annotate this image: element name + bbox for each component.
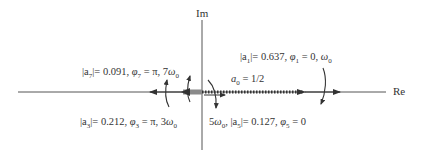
a0-value: = 1/2 xyxy=(240,73,265,84)
a7-mag-left: |a xyxy=(82,66,89,77)
real-axis-label: Re xyxy=(393,86,405,97)
a3-label: |a3|= 0.212, φ3 = π, 3ω0 xyxy=(80,117,177,130)
a5-freq: ω xyxy=(214,116,221,127)
a3-mag-left: |a xyxy=(80,116,87,127)
a3-mag-right: |= 0.212, xyxy=(90,116,130,127)
a1-rotation-arrow xyxy=(321,68,325,104)
a5-label: 5ω0, |a5|= 0.127, φ5 = 0 xyxy=(209,117,306,130)
a5-mag-right: |= 0.127, xyxy=(241,116,281,127)
a7-mag-right: |= 0.091, xyxy=(92,66,132,77)
a1-label: |a1|= 0.637, φ1 = 0, ω0 xyxy=(240,52,332,65)
a5-phi-value: = 0 xyxy=(290,116,306,127)
diagram-graphics xyxy=(0,0,421,156)
a1-phi-value: = 0, xyxy=(299,51,321,62)
a1-mag-right: |= 0.637, xyxy=(250,51,290,62)
a3-freq-sub: 0 xyxy=(174,122,178,130)
a7-freq-sub: 0 xyxy=(176,72,180,80)
a7-phi-value: = π, 7 xyxy=(141,66,168,77)
a0-arrowhead xyxy=(297,89,306,95)
a5-rotation-arrow xyxy=(208,80,216,108)
a0-label: a0 = 1/2 xyxy=(231,74,264,87)
phasor-diagram: Im Re |a7|= 0.091, φ7 = π, 7ω0 |a1|= 0.6… xyxy=(0,0,421,156)
a7-label: |a7|= 0.091, φ7 = π, 7ω0 xyxy=(82,67,179,80)
a3-rotation-arrow xyxy=(166,80,169,107)
a1-freq-sub: 0 xyxy=(328,57,332,65)
a3-freq: ω xyxy=(166,116,173,127)
a3-phi-value: = π, 3 xyxy=(139,116,166,127)
a1-mag-left: |a xyxy=(240,51,247,62)
a7-freq: ω xyxy=(168,66,175,77)
imag-axis-label: Im xyxy=(196,8,208,19)
a7-arrowhead xyxy=(181,88,190,96)
